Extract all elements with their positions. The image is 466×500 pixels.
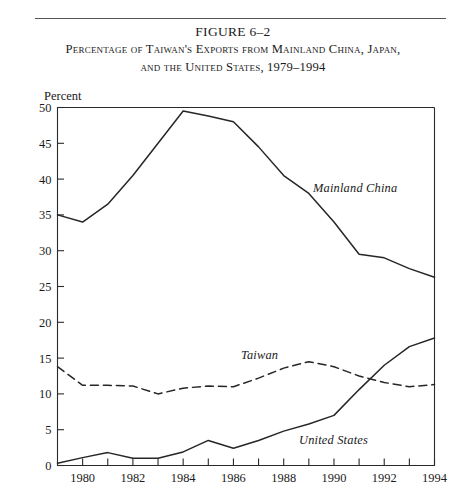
x-tick-label: 1984: [171, 471, 196, 485]
x-tick-label: 1990: [322, 471, 347, 485]
chart-svg: 05101520253035404550 1980198219841986198…: [0, 0, 466, 500]
y-tick-label: 5: [45, 423, 51, 437]
y-tick-labels: 05101520253035404550: [39, 101, 51, 473]
x-tick-label: 1986: [221, 471, 246, 485]
series-label-taiwan: Taiwan: [241, 348, 278, 363]
x-tick-label: 1992: [372, 471, 397, 485]
x-tick-label: 1988: [271, 471, 296, 485]
x-tick-labels: 19801982198419861988199019921994: [70, 471, 447, 485]
y-tick-label: 20: [39, 316, 51, 330]
y-tick-label: 45: [39, 137, 51, 151]
y-tick-label: 40: [39, 173, 51, 187]
series-label-mainland-china: Mainland China: [313, 181, 397, 196]
y-tick-label: 35: [39, 208, 51, 222]
x-tick-label: 1994: [422, 471, 447, 485]
plot-frame: [58, 108, 435, 466]
x-tick-label: 1982: [121, 471, 146, 485]
y-tick-label: 30: [39, 244, 51, 258]
y-tick-label: 15: [39, 352, 51, 366]
chart-axes: 05101520253035404550 1980198219841986198…: [39, 101, 447, 485]
chart-series-group: [58, 111, 435, 463]
y-tick-label: 50: [39, 101, 51, 115]
y-tick-label: 0: [45, 459, 51, 473]
y-tick-label: 10: [39, 387, 51, 401]
plot-area: 05101520253035404550 1980198219841986198…: [0, 0, 466, 500]
x-tick-label: 1980: [70, 471, 95, 485]
figure-container: FIGURE 6–2 Percentage of Taiwan's Export…: [0, 0, 466, 500]
series-line-taiwan: [58, 362, 435, 394]
y-tick-label: 25: [39, 280, 51, 294]
series-label-united-states: United States: [299, 433, 368, 448]
y-tick-marks: [58, 108, 65, 466]
x-tick-marks: [83, 459, 435, 466]
